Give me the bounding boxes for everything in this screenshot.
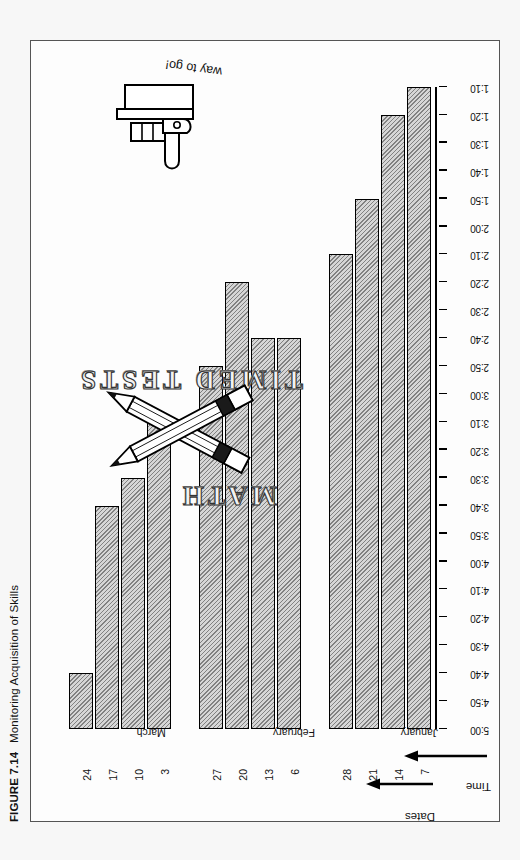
figure-number: FIGURE 7.14: [8, 752, 20, 822]
month-group-label: March: [137, 727, 166, 739]
time-axis-tick: [439, 225, 447, 226]
time-axis-tick: [439, 421, 447, 422]
time-axis-title: Time: [466, 781, 491, 793]
month-group-label: February: [273, 727, 315, 739]
time-axis-tick-labels: 5:004:504:404:304:204:104:003:503:403:30…: [447, 87, 489, 729]
bar: [329, 254, 353, 729]
time-axis-tick-label: 4:20: [470, 613, 489, 624]
time-axis-tick: [439, 448, 447, 449]
figure-title: Monitoring Acquisition of Skills: [8, 585, 20, 743]
time-axis-tick: [439, 644, 447, 645]
bar: [277, 338, 301, 729]
time-axis-tick: [439, 309, 447, 310]
time-axis-tick: [439, 393, 447, 394]
time-axis-tick-label: 3:30: [470, 474, 489, 485]
time-axis-tick: [439, 616, 447, 617]
time-axis-tick-label: 1:10: [470, 83, 489, 94]
time-axis-tick-label: 2:30: [470, 306, 489, 317]
time-axis-tick-label: 1:20: [470, 111, 489, 122]
time-axis-tick: [439, 588, 447, 589]
dates-axis-title: Dates: [405, 811, 435, 823]
time-axis-tick-label: 3:40: [470, 502, 489, 513]
time-axis-tick-label: 1:40: [470, 167, 489, 178]
bar: [69, 673, 93, 729]
time-axis-tick-label: 5:00: [470, 725, 489, 736]
encouragement-artwork: way to go!: [71, 55, 231, 175]
time-axis-tick: [439, 532, 447, 533]
math-timed-tests-artwork: MATH TIMED TESTS: [67, 331, 277, 521]
time-axis-ticks: [437, 87, 447, 729]
figure-frame: 5:004:504:404:304:204:104:003:503:403:30…: [30, 40, 500, 822]
time-axis-tick: [439, 700, 447, 701]
time-axis-tick-label: 1:50: [470, 195, 489, 206]
time-axis-tick-label: 4:40: [470, 669, 489, 680]
time-axis-tick: [439, 672, 447, 673]
time-axis-tick-label: 4:00: [470, 558, 489, 569]
bar: [407, 87, 431, 729]
bar: [95, 506, 119, 729]
time-axis-tick: [439, 728, 447, 729]
time-axis-tick-label: 3:20: [470, 446, 489, 457]
time-axis-tick-label: 4:30: [470, 641, 489, 652]
time-axis-tick-label: 2:10: [470, 250, 489, 261]
chart-plot-area: 5:004:504:404:304:204:104:003:503:403:30…: [31, 41, 499, 821]
time-axis-tick: [439, 253, 447, 254]
figure-page: FIGURE 7.14Monitoring Acquisition of Ski…: [0, 0, 520, 860]
time-axis-tick: [439, 197, 447, 198]
crossed-pencils-icon: [67, 331, 277, 521]
time-axis-tick-label: 4:50: [470, 697, 489, 708]
bar: [355, 199, 379, 729]
time-axis-tick-label: 2:40: [470, 334, 489, 345]
time-axis-tick: [439, 560, 447, 561]
time-axis-tick-label: 3:50: [470, 530, 489, 541]
time-axis-tick: [439, 114, 447, 115]
time-axis-tick: [439, 365, 447, 366]
time-axis-tick: [439, 504, 447, 505]
dates-axis-arrow-icon: [365, 777, 435, 791]
time-axis-tick-label: 2:00: [470, 223, 489, 234]
time-axis-tick-label: 2:20: [470, 278, 489, 289]
time-axis-arrow-icon: [403, 749, 489, 763]
time-axis-tick: [439, 476, 447, 477]
month-group-labels: JanuaryFebruaryMarch: [43, 729, 435, 821]
time-axis-tick-label: 2:50: [470, 362, 489, 373]
bar: [381, 115, 405, 729]
time-axis-tick: [439, 169, 447, 170]
time-axis-tick-label: 3:10: [470, 418, 489, 429]
time-axis-tick: [439, 86, 447, 87]
time-axis-tick: [439, 141, 447, 142]
time-axis-tick: [439, 281, 447, 282]
figure-caption: FIGURE 7.14Monitoring Acquisition of Ski…: [8, 585, 20, 822]
time-axis-tick: [439, 337, 447, 338]
figure-stage: FIGURE 7.14Monitoring Acquisition of Ski…: [0, 0, 520, 860]
time-axis-tick-label: 3:00: [470, 390, 489, 401]
time-axis-tick-label: 1:30: [470, 139, 489, 150]
month-group-label: January: [401, 727, 438, 739]
time-axis-tick-label: 4:10: [470, 585, 489, 596]
